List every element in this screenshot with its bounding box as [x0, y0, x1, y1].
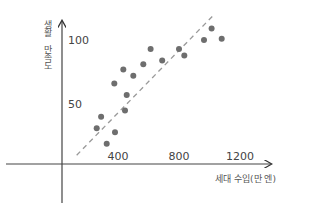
data-point — [104, 141, 110, 147]
data-point — [159, 58, 165, 64]
data-point — [111, 81, 117, 87]
data-point — [98, 114, 104, 120]
data-point — [124, 92, 130, 98]
y-tick-label: 50 — [68, 98, 82, 111]
data-point — [122, 107, 128, 113]
data-point — [219, 36, 225, 42]
y-tick-label: 100 — [68, 34, 89, 47]
data-point — [112, 129, 118, 135]
data-point — [148, 46, 154, 52]
data-point — [140, 61, 146, 67]
data-point — [130, 73, 136, 79]
data-point — [201, 37, 207, 43]
data-point — [176, 46, 182, 52]
x-tick-label: 800 — [169, 150, 190, 163]
x-axis-label: 세대 수입(만 엔) — [215, 173, 276, 184]
data-point — [120, 66, 126, 72]
data-point — [181, 52, 187, 58]
x-tick-label: 400 — [108, 150, 129, 163]
trend-line — [77, 16, 213, 156]
data-point — [94, 125, 100, 131]
x-tick-label: 1200 — [226, 150, 254, 163]
data-point — [209, 26, 215, 32]
x-tick-labels: 4008001200 — [108, 150, 255, 163]
y-axis-label: 생활 만족도 — [40, 20, 54, 69]
y-tick-labels: 50100 — [68, 34, 89, 111]
data-points — [94, 26, 225, 147]
